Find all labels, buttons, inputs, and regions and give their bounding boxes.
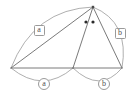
arc-lower-right — [73, 68, 122, 81]
label-arc-upper-right: b — [115, 28, 126, 39]
vertex-group — [92, 6, 94, 8]
label-arc-lower-right: b — [98, 78, 110, 90]
angle-dot-left — [84, 20, 87, 23]
label-arc-upper-right-text: b — [118, 29, 122, 37]
angle-dot-right — [91, 20, 94, 23]
segment-left-to-apex — [11, 7, 93, 68]
arc-group — [11, 7, 123, 81]
geometry-figure: a b a b — [0, 0, 137, 97]
segment-middle-to-apex — [73, 7, 93, 68]
apex-vertex-dot — [92, 6, 94, 8]
label-arc-lower-right-text: b — [102, 80, 106, 88]
label-arc-upper-left-text: a — [37, 26, 41, 34]
label-arc-upper-left: a — [34, 25, 45, 36]
segment-group — [11, 7, 122, 68]
figure-canvas — [0, 0, 137, 97]
angle-mark-group — [84, 20, 94, 23]
label-arc-lower-left: a — [38, 78, 50, 90]
label-arc-lower-left-text: a — [42, 80, 46, 88]
